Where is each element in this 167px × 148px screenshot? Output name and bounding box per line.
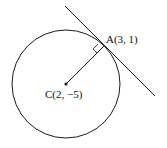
circle-tangent-diagram [0, 0, 167, 148]
point-a-label: A(3, 1) [106, 33, 138, 45]
right-angle-marker [93, 44, 98, 53]
center-point [64, 82, 67, 85]
tangent-line [65, 6, 155, 96]
center-label: C(2, −5) [45, 88, 82, 100]
diagram-canvas: A(3, 1) C(2, −5) [0, 0, 167, 148]
radius-line [66, 46, 104, 84]
